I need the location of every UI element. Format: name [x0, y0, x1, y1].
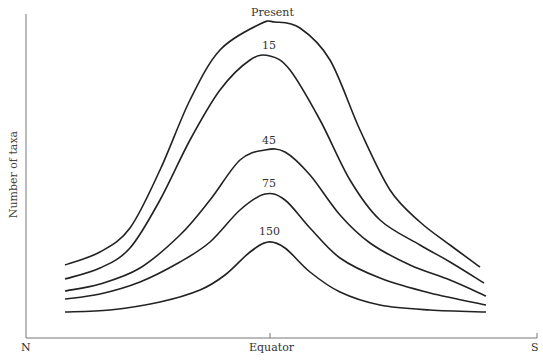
curve-label-45: 45 [262, 134, 276, 147]
curve-label-15: 15 [262, 39, 276, 52]
curve-15 [65, 55, 484, 283]
curve-150 [65, 242, 486, 312]
south-label: S [531, 341, 539, 354]
curve-label-present: Present [251, 6, 294, 19]
curve-label-150: 150 [259, 225, 280, 238]
y-axis-label: Number of taxa [7, 130, 20, 220]
north-label: N [21, 341, 31, 354]
curve-label-75: 75 [262, 177, 276, 190]
curve-45 [65, 149, 486, 296]
equator-label: Equator [249, 341, 294, 354]
